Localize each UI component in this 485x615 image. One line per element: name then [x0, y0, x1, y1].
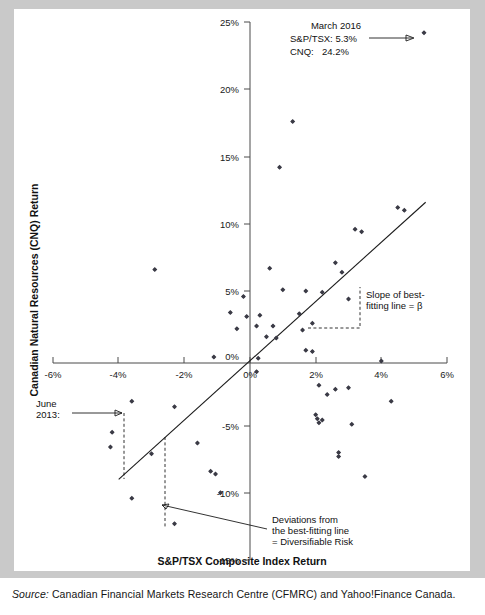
source-text: Canadian Financial Markets Research Cent…: [52, 588, 456, 600]
march-callout-index: S&P/TSX: 5.3%: [290, 33, 358, 44]
data-point-core: [242, 295, 245, 298]
y-axis-title: Canadian Natural Resources (CNQ) Return: [28, 184, 40, 397]
data-point-core: [340, 271, 343, 274]
y-tick-label: -5%: [222, 421, 239, 432]
data-point-core: [311, 322, 314, 325]
data-point-core: [109, 446, 112, 449]
data-point-core: [173, 522, 176, 525]
source-label: Source:: [12, 588, 49, 600]
x-axis-ticks: -6% -4% -2% 0% 2% 4% 6%: [45, 357, 455, 380]
data-point-core: [317, 421, 320, 424]
data-point-core: [380, 359, 383, 362]
data-point-core: [423, 31, 426, 34]
slope-indicator: [308, 287, 360, 328]
data-point-core: [304, 349, 307, 352]
data-point-core: [314, 413, 317, 416]
y-tick-label: 0%: [225, 351, 239, 362]
x-axis-title: S&P/TSX Composite Index Return: [157, 555, 326, 567]
data-point-core: [281, 288, 284, 291]
deviations-annotation-line2: the best-fitting line: [272, 525, 349, 536]
scatter-points: [108, 30, 427, 526]
data-point-core: [347, 298, 350, 301]
data-point-core: [334, 261, 337, 264]
data-point-core: [278, 166, 281, 169]
data-point-core: [150, 452, 153, 455]
deviations-annotation-line3: = Diversifiable Risk: [272, 536, 353, 547]
data-point-core: [173, 405, 176, 408]
data-point-core: [354, 228, 357, 231]
data-point-core: [363, 475, 366, 478]
y-tick-label: 5%: [225, 286, 239, 297]
data-point-core: [350, 423, 353, 426]
slope-annotation-line2: fitting line = β: [366, 300, 423, 311]
data-point-core: [347, 386, 350, 389]
y-axis-ticks: 25% 20% 15% 10% 5% 0% -5% -10% -15%: [217, 17, 250, 566]
data-point-core: [257, 357, 260, 360]
source-band: Source: Canadian Financial Markets Resea…: [0, 578, 485, 615]
data-point-core: [245, 315, 248, 318]
x-tick-label: 2%: [309, 369, 323, 380]
data-point-core: [326, 393, 329, 396]
data-point-core: [153, 268, 156, 271]
data-point-core: [229, 311, 232, 314]
data-point-core: [275, 337, 278, 340]
x-tick-label: -2%: [176, 369, 193, 380]
y-tick-label: 10%: [220, 219, 240, 230]
data-point-core: [255, 324, 258, 327]
data-point-core: [111, 431, 114, 434]
data-point-core: [265, 335, 268, 338]
march-callout-date: March 2016: [311, 20, 361, 31]
data-point-core: [271, 324, 274, 327]
data-point-core: [396, 206, 399, 209]
data-point-core: [298, 312, 301, 315]
source-note: Source: Canadian Financial Markets Resea…: [12, 588, 455, 600]
data-point-core: [321, 419, 324, 422]
june-2013-leader: [72, 410, 122, 416]
march-callout-cnq-label: CNQ:: [290, 46, 314, 57]
scatter-plot: S&P/TSX Composite Index Return Canadian …: [14, 9, 470, 571]
data-point-core: [334, 388, 337, 391]
data-point-core: [235, 327, 238, 330]
data-point-core: [212, 355, 215, 358]
data-point-core: [196, 441, 199, 444]
data-point-core: [268, 267, 271, 270]
data-point-core: [258, 314, 261, 317]
x-tick-label: 6%: [440, 369, 454, 380]
y-tick-label: 15%: [220, 152, 240, 163]
slope-annotation-line1: Slope of best-: [366, 289, 425, 300]
june-label-line1: June: [36, 398, 57, 409]
y-tick-label: 20%: [220, 84, 240, 95]
data-point-core: [311, 350, 314, 353]
data-point-core: [337, 451, 340, 454]
data-point-core: [214, 472, 217, 475]
data-point-core: [304, 290, 307, 293]
data-point-core: [301, 329, 304, 332]
data-point-core: [390, 400, 393, 403]
figure-page: S&P/TSX Composite Index Return Canadian …: [0, 0, 485, 615]
x-tick-label: 4%: [374, 369, 388, 380]
data-point-core: [291, 120, 294, 123]
x-tick-label: -4%: [110, 369, 127, 380]
data-point-core: [403, 209, 406, 212]
data-point-core: [360, 230, 363, 233]
data-point-core: [316, 417, 319, 420]
march-callout-arrow: [369, 35, 414, 41]
data-point-core: [209, 470, 212, 473]
data-point-core: [130, 400, 133, 403]
data-point-core: [219, 491, 222, 494]
deviations-annotation-line1: Deviations from: [272, 514, 338, 525]
chart-card: S&P/TSX Composite Index Return Canadian …: [14, 9, 470, 571]
x-tick-label: -6%: [45, 369, 62, 380]
y-tick-label: -15%: [217, 555, 240, 566]
data-point-core: [255, 370, 258, 373]
data-point-core: [337, 455, 340, 458]
data-point-core: [317, 384, 320, 387]
data-point-core: [130, 497, 133, 500]
deviations-leader: [162, 504, 267, 529]
june-label-line2: 2013:: [36, 409, 60, 420]
data-point-core: [321, 291, 324, 294]
y-tick-label: 25%: [220, 17, 240, 28]
march-callout-cnq-value: 24.2%: [322, 46, 349, 57]
